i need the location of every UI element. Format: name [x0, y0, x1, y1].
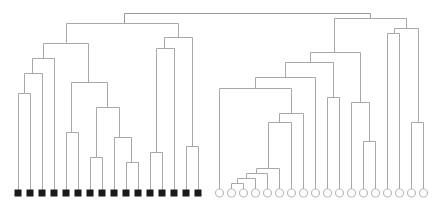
leaf-square-marker	[99, 190, 106, 197]
dendrogram-link	[220, 89, 292, 194]
leaf-square-marker	[15, 190, 22, 197]
dendrogram-link	[19, 94, 31, 194]
leaf-square-marker	[183, 190, 190, 197]
dendrogram-links	[19, 14, 424, 194]
right-cluster-leaves	[216, 189, 428, 197]
dendrogram-link	[67, 133, 79, 194]
dendrogram-plot	[0, 0, 437, 210]
dendrogram-link	[151, 153, 163, 194]
dendrogram-link	[395, 29, 419, 123]
dendrogram-link	[157, 49, 175, 194]
dendrogram-link	[352, 103, 370, 194]
leaf-circle-marker	[408, 189, 416, 197]
dendrogram-link	[412, 123, 424, 194]
dendrogram-link	[33, 59, 55, 194]
leaf-circle-marker	[312, 189, 320, 197]
leaf-square-marker	[27, 190, 34, 197]
leaf-circle-marker	[300, 189, 308, 197]
leaf-circle-marker	[384, 189, 392, 197]
leaf-circle-marker	[276, 189, 284, 197]
leaf-circle-marker	[348, 189, 356, 197]
leaf-circle-marker	[228, 189, 236, 197]
dendrogram-link	[25, 74, 43, 194]
dendrogram-link	[97, 108, 120, 158]
leaf-square-marker	[111, 190, 118, 197]
leaf-circle-marker	[240, 189, 248, 197]
dendrogram-link	[328, 98, 340, 194]
dendrogram-link	[165, 38, 193, 147]
leaf-circle-marker	[216, 189, 224, 197]
dendrogram-link	[67, 24, 179, 44]
leaf-square-marker	[123, 190, 130, 197]
dendrogram-canvas	[0, 0, 437, 210]
left-cluster-leaves	[15, 190, 202, 197]
dendrogram-link	[286, 63, 334, 98]
dendrogram-link	[335, 19, 407, 53]
leaf-square-marker	[75, 190, 82, 197]
leaf-circle-marker	[324, 189, 332, 197]
leaf-circle-marker	[396, 189, 404, 197]
dendrogram-link	[91, 158, 103, 194]
leaf-square-marker	[87, 190, 94, 197]
leaf-square-marker	[51, 190, 58, 197]
leaf-circle-marker	[336, 189, 344, 197]
dendrogram-link	[364, 142, 376, 194]
leaf-square-marker	[63, 190, 70, 197]
dendrogram-link	[311, 53, 361, 103]
leaf-square-marker	[195, 190, 202, 197]
leaf-circle-marker	[252, 189, 260, 197]
dendrogram-link	[256, 78, 316, 194]
dendrogram-link	[44, 44, 89, 83]
dendrogram-link	[125, 14, 371, 24]
leaf-circle-marker	[264, 189, 272, 197]
dendrogram-link	[115, 138, 132, 194]
leaf-square-marker	[147, 190, 154, 197]
dendrogram-link	[127, 163, 139, 194]
leaf-square-marker	[39, 190, 46, 197]
leaf-circle-marker	[420, 189, 428, 197]
leaf-circle-marker	[360, 189, 368, 197]
leaf-circle-marker	[288, 189, 296, 197]
leaf-square-marker	[171, 190, 178, 197]
leaf-square-marker	[159, 190, 166, 197]
leaf-circle-marker	[372, 189, 380, 197]
dendrogram-link	[187, 147, 199, 194]
leaf-square-marker	[135, 190, 142, 197]
dendrogram-link	[388, 34, 400, 194]
